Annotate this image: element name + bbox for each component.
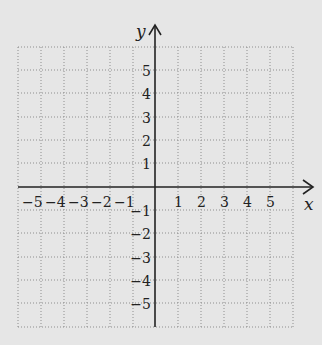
x-axis-label: x [304, 194, 314, 214]
svg-text:1: 1 [174, 194, 183, 210]
svg-text:−3: −3 [68, 194, 89, 210]
svg-text:2: 2 [197, 194, 206, 210]
svg-text:3: 3 [220, 194, 229, 210]
svg-text:5: 5 [142, 63, 151, 79]
svg-text:−4: −4 [130, 273, 151, 289]
svg-text:−1: −1 [130, 203, 151, 219]
y-axis-label: y [135, 21, 146, 41]
svg-text:3: 3 [142, 110, 151, 126]
svg-text:−5: −5 [22, 194, 43, 210]
svg-text:4: 4 [142, 86, 151, 102]
svg-text:4: 4 [243, 194, 252, 210]
svg-text:−4: −4 [45, 194, 66, 210]
svg-text:5: 5 [266, 194, 275, 210]
svg-text:−5: −5 [130, 296, 151, 312]
svg-text:−2: −2 [91, 194, 112, 210]
svg-text:1: 1 [142, 156, 151, 172]
coordinate-plane: x y −5 −4 −3 −2 −1 1 2 3 4 5 5 4 3 2 1 −… [0, 0, 322, 345]
svg-text:−3: −3 [130, 250, 151, 266]
svg-text:2: 2 [142, 133, 151, 149]
svg-text:−2: −2 [130, 226, 151, 242]
